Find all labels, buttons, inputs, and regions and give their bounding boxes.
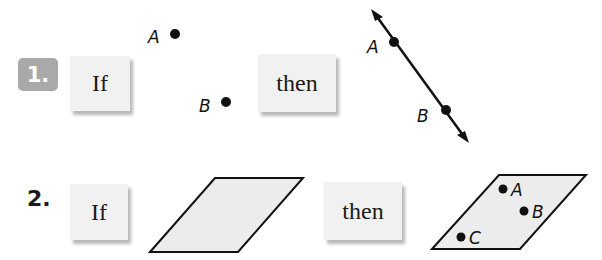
plane-point-a-label: A [510, 180, 523, 200]
plane-point-c-dot [457, 233, 466, 242]
point-b-dot [221, 97, 231, 107]
plane-point-a-dot [499, 185, 508, 194]
plane-point-c-label: C [469, 228, 481, 248]
line-point-a-label: A [366, 37, 379, 57]
line-point-a-dot [389, 37, 399, 47]
point-b-label: B [199, 96, 211, 116]
plane-point-b-label: B [532, 202, 544, 222]
problem-2-number: 2. [27, 186, 51, 211]
point-a-dot [170, 29, 180, 39]
problem-1-if-points: A B [147, 27, 231, 116]
point-a-label: A [147, 27, 160, 47]
arrow-up-icon [371, 9, 383, 21]
problem-2-plane [150, 178, 303, 252]
problem-2-then-card: then [324, 182, 402, 240]
plane-point-b-dot [520, 207, 529, 216]
problem-2-then-plane: A B C [432, 175, 586, 249]
problem-1-then-card: then [258, 54, 336, 112]
arrow-down-icon [457, 131, 469, 143]
line-point-b-dot [441, 105, 451, 115]
problem-2-if-card: If [70, 184, 128, 240]
line-point-b-label: B [417, 106, 429, 126]
problem-1-then-line: A B [366, 9, 469, 143]
